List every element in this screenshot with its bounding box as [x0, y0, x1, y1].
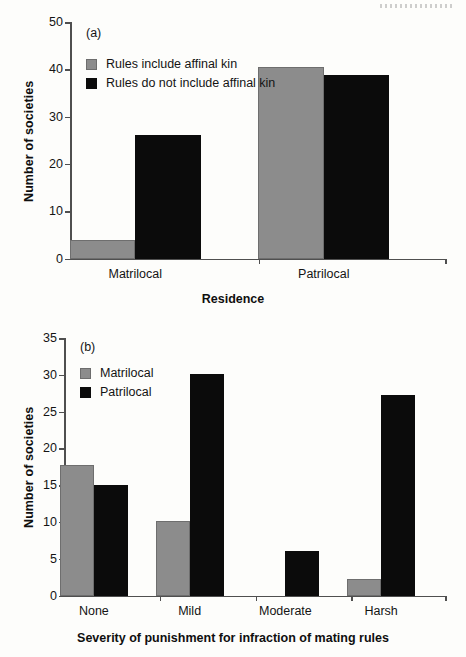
chart-panel-a: Number of societies (a) 01020304050Matri…: [0, 0, 466, 320]
legend-swatch-black-icon: [80, 387, 91, 398]
panel-b-x-axis-label: Severity of punishment for infraction of…: [0, 631, 466, 645]
y-tick-label: 35: [43, 330, 57, 346]
x-tick-mark: [256, 596, 258, 601]
x-tick-mark: [445, 259, 447, 264]
y-tick-label: 15: [43, 477, 57, 493]
x-tick-mark: [351, 596, 353, 601]
y-tick-mark: [65, 22, 70, 24]
x-tick-label: Patrilocal: [298, 266, 349, 282]
y-tick-label: 20: [49, 156, 63, 172]
y-tick-label: 30: [49, 109, 63, 125]
y-tick-mark: [65, 259, 70, 261]
bar: [60, 465, 94, 596]
legend-item: Rules include affinal kin: [86, 56, 275, 73]
panel-a-x-axis-label: Residence: [0, 292, 466, 306]
panel-a-y-axis-label: Number of societies: [22, 80, 36, 201]
bar: [324, 75, 390, 258]
legend-label: Matrilocal: [100, 366, 154, 381]
bar: [156, 521, 190, 595]
y-tick-mark: [65, 117, 70, 119]
y-tick-mark: [59, 338, 64, 340]
panel-b-y-axis-label: Number of societies: [22, 407, 36, 528]
x-tick-label: Matrilocal: [109, 266, 163, 282]
bar: [190, 374, 224, 595]
y-tick-label: 0: [56, 251, 63, 267]
x-tick-mark: [160, 596, 162, 601]
legend-label: Patrilocal: [100, 385, 151, 400]
y-tick-mark: [59, 375, 64, 377]
y-tick-label: 30: [43, 367, 57, 383]
x-tick-label: Mild: [178, 603, 201, 619]
legend-swatch-gray-icon: [80, 368, 91, 379]
x-tick-label: Moderate: [259, 603, 312, 619]
legend-item: Patrilocal: [80, 384, 154, 401]
bar: [347, 579, 381, 595]
figure-page: Number of societies (a) 01020304050Matri…: [0, 0, 466, 657]
legend-label: Rules include affinal kin: [106, 57, 237, 72]
legend-swatch-black-icon: [86, 78, 97, 89]
y-tick-label: 20: [43, 440, 57, 456]
bar: [285, 551, 319, 596]
y-tick-mark: [59, 448, 64, 450]
y-tick-label: 50: [49, 14, 63, 30]
bar: [94, 485, 128, 595]
y-tick-mark: [59, 596, 64, 598]
bar: [381, 395, 415, 595]
x-tick-label: None: [79, 603, 109, 619]
y-tick-label: 25: [43, 404, 57, 420]
y-tick-label: 0: [50, 588, 57, 604]
y-tick-mark: [65, 69, 70, 71]
legend-swatch-gray-icon: [86, 59, 97, 70]
bar: [258, 67, 324, 259]
chart-panel-b: Number of societies (b) 05101520253035No…: [0, 320, 466, 657]
y-tick-label: 10: [43, 514, 57, 530]
y-tick-mark: [65, 164, 70, 166]
x-tick-mark: [445, 596, 447, 601]
y-tick-mark: [65, 211, 70, 213]
y-tick-mark: [59, 412, 64, 414]
panel-a-legend: Rules include affinal kin Rules do not i…: [86, 56, 275, 94]
panel-b-legend: Matrilocal Patrilocal: [80, 365, 154, 403]
panel-a-y-axis: [70, 22, 72, 260]
x-tick-label: Harsh: [364, 603, 397, 619]
bar: [135, 135, 201, 259]
y-tick-label: 10: [49, 203, 63, 219]
y-tick-label: 5: [50, 551, 57, 567]
legend-item: Matrilocal: [80, 365, 154, 382]
bar: [70, 240, 136, 259]
legend-label: Rules do not include affinal kin: [106, 76, 275, 91]
legend-item: Rules do not include affinal kin: [86, 75, 275, 92]
x-tick-mark: [259, 259, 261, 264]
y-tick-label: 40: [49, 61, 63, 77]
